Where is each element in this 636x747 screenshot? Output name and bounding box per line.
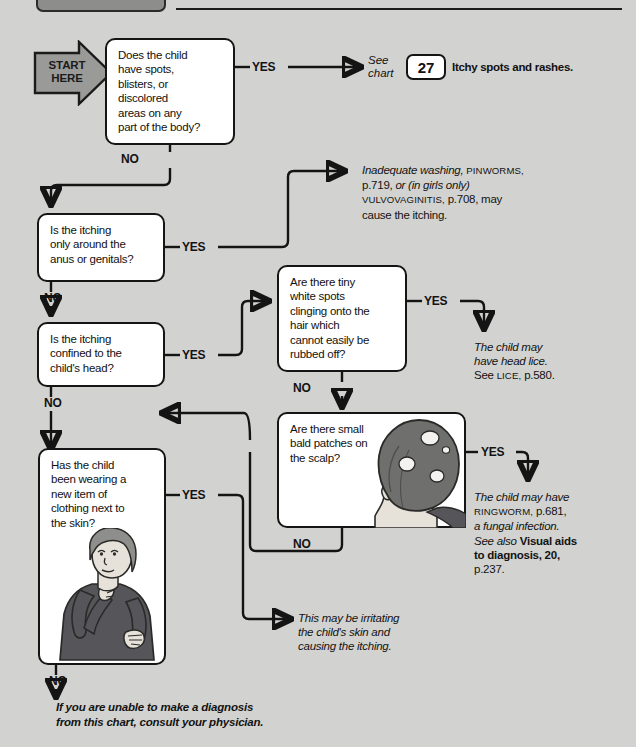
washing-vulvovaginitis: VULVOVAGINITIS, (362, 194, 445, 205)
question-box-bald-patches: Are there small bald patches on the scal… (277, 412, 466, 528)
branch-label-no-q2: NO (44, 291, 62, 305)
start-here-label: START HERE (41, 59, 93, 85)
chart-reference-title: Itchy spots and rashes. (452, 61, 573, 73)
ringworm-visual-aids: Visual aids (520, 535, 577, 547)
branch-label-no-q3: NO (44, 396, 62, 410)
branch-label-yes-q6: YES (182, 488, 205, 502)
ringworm-term: RINGWORM, (474, 506, 533, 517)
question-text: Is the itching only around the anus or g… (50, 223, 133, 266)
footer-line2: from this chart, consult your physician. (56, 716, 263, 728)
question-box-spots-blisters: Does the child have spots, blisters, or … (105, 38, 235, 145)
chart-number-badge[interactable]: 27 (406, 54, 446, 80)
washing-girls-only: or (in girls only) (395, 179, 469, 191)
chart-word: chart (368, 67, 394, 79)
irritating-line2: the child's skin and (298, 626, 390, 638)
outcome-irritating-clothing: This may be irritating the child's skin … (298, 611, 498, 654)
ringworm-page-237: p.237. (474, 563, 504, 575)
branch-label-no-q6: NO (49, 674, 67, 688)
child-scratching-illustration (54, 528, 164, 663)
outcome-ringworm: The child may have RINGWORM, p.681, a fu… (474, 490, 630, 576)
washing-pinworms: PINWORMS, (466, 165, 523, 176)
question-box-confined-head: Is the itching confined to the child's h… (37, 322, 165, 387)
diagnostic-chart-page: START HERE Does the child have spots, bl… (0, 0, 636, 747)
branch-label-yes-q2: YES (182, 240, 205, 254)
irritating-line1: This may be irritating (298, 612, 399, 624)
footer-line1: If you are unable to make a diagnosis (56, 701, 253, 713)
irritating-line3: causing the itching. (298, 640, 391, 652)
ringworm-page-681: p.681, (536, 505, 566, 517)
lice-line1: The child may (474, 341, 542, 353)
question-box-new-clothing: Has the child been wearing a new item of… (38, 448, 166, 665)
ringworm-line3: a fungal infection. (474, 520, 559, 532)
ringworm-to-diagnosis: to diagnosis, 20, (474, 549, 560, 561)
question-text: Has the child been wearing a new item of… (51, 458, 126, 530)
footer-disclaimer: If you are unable to make a diagnosis fr… (56, 700, 263, 729)
header-rule (176, 8, 622, 10)
branch-label-no-q5: NO (293, 537, 311, 551)
see-chart-text: See chart (368, 54, 394, 80)
branch-label-yes-q1: YES (252, 60, 275, 74)
chart-number-pill (36, 0, 166, 12)
question-text: Are there small bald patches on the scal… (290, 422, 367, 465)
washing-line4: cause the itching. (362, 209, 447, 221)
lice-line2: have head lice. (474, 355, 548, 367)
question-text: Is the itching confined to the child's h… (50, 332, 122, 375)
washing-page-708: p.708, may (448, 193, 502, 205)
lice-page: p.580. (524, 369, 554, 381)
question-text: Are there tiny white spots clinging onto… (290, 275, 370, 361)
question-box-anus-genitals: Is the itching only around the anus or g… (37, 213, 165, 282)
lice-term: LICE, (497, 370, 522, 381)
branch-label-yes-q4: YES (424, 294, 447, 308)
outcome-head-lice: The child may have head lice. See LICE, … (474, 340, 624, 384)
branch-label-yes-q3: YES (182, 348, 205, 362)
washing-page-719: p.719, (362, 179, 392, 191)
branch-label-no-q4: NO (293, 381, 311, 395)
see-word: See (368, 54, 388, 66)
question-text: Does the child have spots, blisters, or … (118, 48, 200, 134)
washing-line1-italic: Inadequate washing, (362, 164, 463, 176)
ringworm-line1: The child may have (474, 491, 569, 503)
branch-label-yes-q5: YES (481, 445, 504, 459)
outcome-inadequate-washing: Inadequate washing, PINWORMS, p.719, or … (362, 163, 622, 222)
lice-see: See (474, 369, 494, 381)
ringworm-see-also: See also (474, 535, 517, 547)
bald-head-illustration (365, 416, 466, 528)
question-box-white-spots-hair: Are there tiny white spots clinging onto… (277, 265, 407, 372)
branch-label-no-q1: NO (121, 152, 139, 166)
